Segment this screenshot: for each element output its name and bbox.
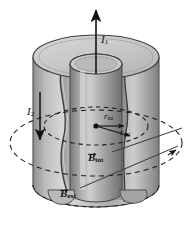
label-field-external-sub: ext [67,192,76,199]
label-field-internal: Bint [88,152,103,164]
coaxial-cable-diagram: I1 I2 rint rext Bint Bext [0,0,193,225]
outer-loop-direction-arrow [168,150,176,155]
label-radius-internal: rint [104,112,113,122]
label-radius-external-sub: ext [124,131,131,137]
label-radius-internal-sub: int [108,115,114,121]
label-current-I2-sub: 2 [31,110,34,117]
inner-rod-highlight [80,70,85,190]
label-current-I2: I2 [27,106,34,118]
label-radius-external: rext [120,128,130,138]
label-current-I1-sub: 1 [105,38,108,45]
label-current-I1: I1 [101,34,108,46]
label-field-internal-sub: int [95,156,103,163]
label-field-external: Bext [60,188,76,200]
